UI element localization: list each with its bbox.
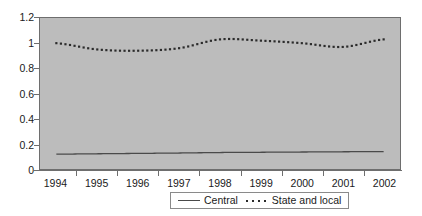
y-axis-tick bbox=[34, 68, 39, 69]
series-dot bbox=[78, 46, 80, 48]
y-axis-tick-label: 0.2 bbox=[2, 140, 34, 151]
series-dot bbox=[242, 38, 244, 40]
series-dot bbox=[296, 42, 298, 44]
series-dot bbox=[146, 49, 148, 51]
series-dot bbox=[310, 43, 312, 45]
series-dot bbox=[196, 43, 198, 45]
series-dot bbox=[192, 44, 194, 46]
series-dot bbox=[201, 42, 203, 44]
x-axis-tick-label: 1997 bbox=[167, 178, 190, 189]
series-dot bbox=[110, 49, 112, 51]
series-dot bbox=[173, 48, 175, 50]
series-dot bbox=[123, 50, 125, 52]
x-axis-tick-label: 1996 bbox=[126, 178, 149, 189]
y-axis-tick bbox=[34, 119, 39, 120]
y-axis-tick bbox=[34, 94, 39, 95]
legend-swatch-dotted-icon bbox=[246, 196, 268, 205]
series-dot bbox=[214, 39, 216, 41]
series-dot bbox=[273, 40, 275, 42]
series-dot bbox=[133, 50, 135, 52]
series-dot bbox=[292, 41, 294, 43]
series-dot bbox=[92, 48, 94, 50]
series-dot bbox=[142, 50, 144, 52]
series-dot bbox=[210, 40, 212, 42]
legend-label: Central bbox=[204, 195, 238, 206]
series-dot bbox=[264, 40, 266, 42]
series-dot bbox=[83, 46, 85, 48]
y-axis-tick-label: 0 bbox=[2, 165, 34, 176]
series-dot bbox=[105, 49, 107, 51]
series-dot bbox=[319, 44, 321, 46]
series-dot bbox=[223, 38, 225, 40]
series-dot bbox=[137, 50, 139, 52]
y-axis-tick-label: 1.2 bbox=[2, 12, 34, 23]
series-dot bbox=[101, 49, 103, 51]
series-dot bbox=[119, 50, 121, 52]
series-dot bbox=[364, 42, 366, 44]
series-dot bbox=[369, 41, 371, 43]
x-axis-tick bbox=[76, 171, 77, 176]
x-axis-tick bbox=[117, 171, 118, 176]
series-dot bbox=[323, 45, 325, 47]
y-axis-tick-label: 0.6 bbox=[2, 89, 34, 100]
series-dot bbox=[328, 45, 330, 47]
series-dot bbox=[342, 46, 344, 48]
series-dot bbox=[246, 39, 248, 41]
series-dot bbox=[73, 45, 75, 47]
y-axis-tick-label: 1 bbox=[2, 38, 34, 49]
series-dot bbox=[333, 46, 335, 48]
x-axis-tick-label: 2001 bbox=[332, 178, 355, 189]
x-axis-tick-label: 2002 bbox=[373, 178, 396, 189]
series-dot bbox=[169, 48, 171, 50]
series-dot bbox=[178, 47, 180, 49]
series-dot bbox=[219, 38, 221, 40]
y-axis-tick bbox=[34, 145, 39, 146]
series-dot bbox=[278, 41, 280, 43]
x-axis-tick-label: 1995 bbox=[85, 178, 108, 189]
series-dot bbox=[60, 43, 62, 45]
y-axis-tick bbox=[34, 170, 39, 171]
x-axis-tick bbox=[241, 171, 242, 176]
series-dot bbox=[373, 40, 375, 42]
x-axis-tick bbox=[199, 171, 200, 176]
y-axis-tick bbox=[34, 17, 39, 18]
series-dots-state-and-local bbox=[55, 38, 384, 52]
series-dot bbox=[128, 50, 130, 52]
series-dot bbox=[114, 49, 116, 51]
series-dot bbox=[164, 49, 166, 51]
series-dot bbox=[55, 42, 57, 44]
series-dot bbox=[69, 44, 71, 46]
series-dot bbox=[228, 38, 230, 40]
series-dot bbox=[64, 43, 66, 45]
legend-label: State and local bbox=[272, 195, 341, 206]
y-axis-labels: 1.210.80.60.40.20 bbox=[0, 0, 34, 216]
y-axis-tick-label: 0.4 bbox=[2, 114, 34, 125]
legend-entry: State and local bbox=[246, 195, 341, 206]
plot-area bbox=[39, 17, 401, 170]
y-axis-tick-label: 0.8 bbox=[2, 63, 34, 74]
x-axis-tick-label: 1994 bbox=[44, 178, 67, 189]
series-dot bbox=[255, 39, 257, 41]
series-dot bbox=[205, 41, 207, 43]
series-dot bbox=[346, 45, 348, 47]
series-dot bbox=[269, 40, 271, 42]
series-dot bbox=[337, 46, 339, 48]
series-dot bbox=[314, 44, 316, 46]
x-axis-tick bbox=[282, 171, 283, 176]
series-dot bbox=[160, 49, 162, 51]
series-dot bbox=[87, 47, 89, 49]
series-line-central bbox=[56, 152, 383, 155]
chart-figure: 1.210.80.60.40.20 1994199519961997199819… bbox=[0, 0, 422, 216]
series-canvas bbox=[40, 18, 400, 169]
series-dot bbox=[360, 43, 362, 45]
x-axis-tick-label: 1998 bbox=[208, 178, 231, 189]
x-axis-tick-label: 1999 bbox=[249, 178, 272, 189]
series-dot bbox=[355, 44, 357, 46]
legend-swatch-solid-icon bbox=[178, 196, 200, 205]
series-dot bbox=[378, 39, 380, 41]
chart-legend: CentralState and local bbox=[170, 192, 349, 209]
series-dot bbox=[183, 46, 185, 48]
series-dot bbox=[383, 38, 385, 40]
x-axis-line bbox=[33, 170, 402, 171]
series-dot bbox=[155, 49, 157, 51]
